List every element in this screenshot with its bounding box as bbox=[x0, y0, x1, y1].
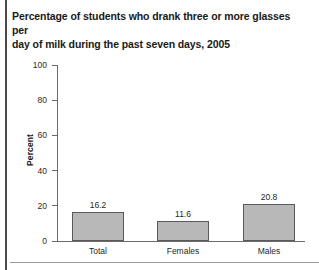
category-label-males: Males bbox=[229, 247, 309, 256]
y-tick-0 bbox=[52, 65, 57, 66]
bar-females[interactable] bbox=[157, 221, 209, 241]
y-tick-5 bbox=[52, 241, 57, 242]
category-label-total: Total bbox=[58, 247, 138, 256]
y-tick-label-100: 100 bbox=[7, 61, 47, 69]
category-label-females: Females bbox=[143, 247, 223, 256]
bar-males[interactable] bbox=[243, 204, 295, 241]
y-tick-label-20: 20 bbox=[7, 202, 47, 210]
y-tick-4 bbox=[52, 205, 57, 206]
y-axis-line bbox=[57, 65, 58, 242]
y-tick-label-80: 80 bbox=[7, 96, 47, 104]
bar-value-males: 20.8 bbox=[239, 193, 299, 202]
x-axis-line bbox=[57, 241, 305, 242]
plot-area: Percent 100 80 60 40 20 0 16.2 11.6 20.8… bbox=[0, 0, 319, 270]
bar-value-total: 16.2 bbox=[68, 201, 128, 210]
y-tick-2 bbox=[52, 135, 57, 136]
y-tick-label-40: 40 bbox=[7, 167, 47, 175]
bar-value-females: 11.6 bbox=[153, 210, 213, 219]
bar-total[interactable] bbox=[72, 212, 124, 241]
y-tick-1 bbox=[52, 100, 57, 101]
y-tick-label-60: 60 bbox=[7, 131, 47, 139]
y-tick-label-0: 0 bbox=[7, 237, 47, 245]
chart-screenshot: Percentage of students who drank three o… bbox=[0, 0, 319, 270]
y-tick-3 bbox=[52, 170, 57, 171]
